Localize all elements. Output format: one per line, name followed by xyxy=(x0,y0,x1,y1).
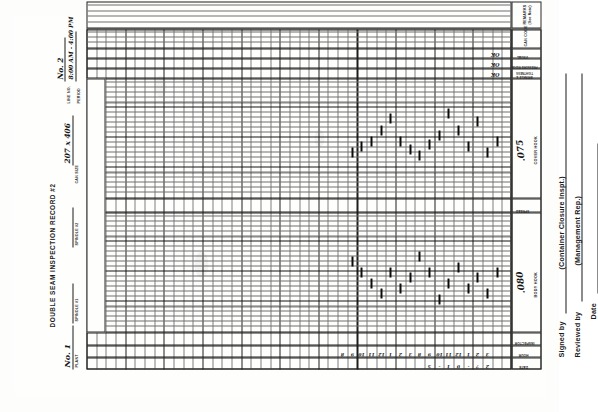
column-rule xyxy=(87,91,510,92)
date-entry: 1 xyxy=(443,363,453,368)
hour-entry: 3 xyxy=(482,351,492,356)
label-remarks-sub: (See Note) xyxy=(527,5,531,24)
period-value: 8:00 AM - 4:00 PM xyxy=(66,16,73,79)
hour-entry: 2 xyxy=(472,351,482,356)
data-mark xyxy=(389,267,391,277)
column-rule xyxy=(87,260,510,261)
line-no-label: LINE NO. xyxy=(66,85,70,103)
date-entry: 2 xyxy=(482,363,492,368)
column-rule xyxy=(87,121,510,122)
column-rule xyxy=(87,275,510,276)
column-rule xyxy=(87,285,510,286)
column-spread xyxy=(86,198,511,212)
column-rule xyxy=(87,31,510,32)
column-rule xyxy=(87,225,510,226)
data-mark xyxy=(476,272,478,282)
scan-artifact xyxy=(154,75,166,97)
page-title: DOUBLE SEAM INSPECTION RECORD #2 xyxy=(48,183,55,327)
column-rule xyxy=(87,315,510,316)
line-no-value: No. 2 xyxy=(55,57,64,79)
signed-by-role: (Container Closure Inspt.) xyxy=(556,176,565,269)
hour-entry: 9 xyxy=(347,351,357,356)
label-cover-hook: COVER HOOK xyxy=(533,136,537,164)
data-mark xyxy=(418,150,420,160)
chart-band-cover-hook xyxy=(86,78,511,198)
hour-entry: 3 xyxy=(405,351,415,356)
data-mark xyxy=(428,267,430,277)
period-underline xyxy=(75,31,76,81)
spec-limit-line xyxy=(87,236,510,237)
spec-limit-line xyxy=(87,306,510,307)
column-rule xyxy=(87,186,510,187)
hour-entry: 2 xyxy=(395,351,405,356)
data-mark xyxy=(351,256,353,266)
date-entry: 0 xyxy=(453,363,463,368)
hour-entry: 8 xyxy=(414,351,424,356)
column-rule xyxy=(87,240,510,241)
column-rule xyxy=(87,176,510,177)
hour-entry: 1 xyxy=(385,351,395,356)
label-visual: VISUAL xyxy=(507,53,537,57)
column-rule xyxy=(87,191,510,192)
date-entry: - xyxy=(463,363,473,368)
data-mark xyxy=(428,139,430,149)
column-rule xyxy=(87,101,510,102)
data-mark xyxy=(389,113,391,123)
scan-artifact xyxy=(314,129,324,147)
data-mark xyxy=(370,278,372,288)
column-rule xyxy=(87,136,510,137)
label-wrinkle-tightness: WRINKLE & TIGHTNESS xyxy=(509,70,539,77)
spec-limit-line xyxy=(87,102,510,103)
header-blank-strip xyxy=(86,78,105,332)
spindle1-label: SPINDLE #1 xyxy=(74,298,78,321)
column-rule xyxy=(87,325,510,326)
column-rule xyxy=(87,161,510,162)
data-mark xyxy=(438,294,440,304)
column-rule xyxy=(87,111,510,112)
reviewed-by-role: (Management Rep.) xyxy=(572,195,581,265)
data-mark xyxy=(370,136,372,146)
column-rule xyxy=(87,166,510,167)
plant-value: No. 1 xyxy=(61,343,71,367)
data-mark xyxy=(399,136,401,146)
can-size-label: CAN SIZE xyxy=(74,164,78,183)
signed-by-label: Signed by xyxy=(556,321,565,357)
date-label: Date xyxy=(588,303,597,319)
data-mark xyxy=(496,267,498,277)
spec-limit-line xyxy=(87,172,510,173)
data-mark xyxy=(486,147,488,157)
column-rule xyxy=(87,41,510,42)
data-mark xyxy=(380,125,382,135)
column-pressure-ridge xyxy=(86,58,511,68)
spindle1-underline xyxy=(72,283,73,323)
check-mark-wrinkle-tightness: OK xyxy=(490,71,499,77)
label-spread: SPREAD xyxy=(507,207,537,211)
hour-entry: 1 xyxy=(463,351,473,356)
label-hour: HOUR xyxy=(508,351,538,355)
label-can-code: CAN CODE xyxy=(523,25,527,46)
date-entry: 7 xyxy=(472,363,482,368)
spindle2-label: SPINDLE #2 xyxy=(74,222,78,245)
column-rule xyxy=(87,310,510,311)
data-mark xyxy=(360,141,362,151)
column-rule xyxy=(87,320,510,321)
column-rule xyxy=(87,265,510,266)
column-rule xyxy=(87,230,510,231)
column-wrinkle-tightness xyxy=(86,68,511,78)
data-mark xyxy=(457,262,459,272)
data-mark xyxy=(360,267,362,277)
data-mark xyxy=(476,116,478,126)
column-rule xyxy=(87,151,510,152)
hour-entry: 12 xyxy=(453,351,463,356)
column-rule xyxy=(87,270,510,271)
can-size-underline xyxy=(72,115,73,165)
handwritten-body-hook-nominal: .080 xyxy=(514,271,526,294)
chart-band-body-hook xyxy=(86,212,511,332)
data-mark xyxy=(496,136,498,146)
column-rule xyxy=(87,146,510,147)
plant-underline xyxy=(72,325,73,369)
data-mark xyxy=(351,147,353,157)
hour-entry: 10 xyxy=(356,351,366,356)
column-rule xyxy=(87,10,510,11)
